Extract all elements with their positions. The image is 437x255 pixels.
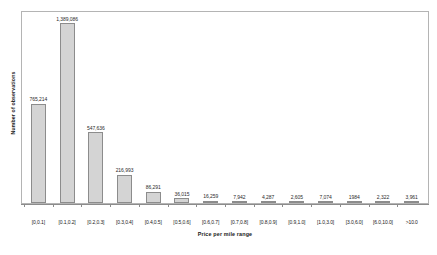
- bar-value-label: 7,074: [319, 194, 331, 200]
- x-axis-category-label: [0.5,0.6]: [168, 210, 197, 228]
- bar-value-label: 2,605: [291, 194, 303, 200]
- x-axis-category-text: [3.0,6.0]: [346, 219, 363, 225]
- x-axis-tick: [24, 204, 53, 207]
- x-axis-category-label: [0.4,0.5]: [139, 210, 168, 228]
- tick-mark: [110, 204, 111, 207]
- tick-mark: [311, 204, 312, 207]
- x-axis-tick: [53, 204, 82, 207]
- x-axis-tick: [369, 204, 398, 207]
- bar-value-label: 1,389,086: [56, 16, 78, 22]
- bar-group: 547,636: [81, 12, 110, 203]
- bar[interactable]: [203, 201, 218, 203]
- x-axis-category-label: [0.6,0.7]: [196, 210, 225, 228]
- bar-group: 2,322: [369, 12, 398, 203]
- bar[interactable]: [289, 201, 304, 203]
- x-axis-category-label: [0.2,0.3]: [81, 210, 110, 228]
- bar-group: 86,291: [139, 12, 168, 203]
- bar-group: 1,389,086: [53, 12, 82, 203]
- bar-group: 36,015: [168, 12, 197, 203]
- x-axis-tick: [139, 204, 168, 207]
- x-axis-tick: [81, 204, 110, 207]
- tick-mark: [53, 204, 54, 207]
- x-axis-tick: [225, 204, 254, 207]
- x-axis-category-label: [6.0,10.0]: [369, 210, 398, 228]
- x-axis-category-label: [0.7,0.8]: [225, 210, 254, 228]
- bar[interactable]: [375, 201, 390, 203]
- x-axis-ticks: [22, 204, 428, 207]
- bar[interactable]: [117, 175, 132, 203]
- tick-mark: [225, 204, 226, 207]
- bar-group: 765,214: [24, 12, 53, 203]
- bar[interactable]: [146, 192, 161, 203]
- bar-group: 7,942: [225, 12, 254, 203]
- x-axis-category-text: [0,0.1]: [32, 219, 45, 225]
- x-axis-category-label: [0,0.1]: [24, 210, 53, 228]
- bar-chart: Number of observations 765,2141,389,0865…: [0, 0, 437, 255]
- bar-group: 3,961: [397, 12, 426, 203]
- bar-value-label: 16,259: [203, 193, 218, 199]
- bar-value-label: 216,993: [116, 167, 134, 173]
- x-axis-category-text: >10.0: [406, 219, 418, 225]
- tick-mark: [340, 204, 341, 207]
- bar[interactable]: [31, 104, 46, 203]
- tick-mark: [369, 204, 370, 207]
- x-axis-category-text: [0.6,0.7]: [202, 219, 219, 225]
- bar-value-label: 86,291: [146, 184, 161, 190]
- bar-value-label: 36,015: [174, 191, 189, 197]
- x-axis-category-label: >10.0: [397, 210, 426, 228]
- y-axis-title-text: Number of observations: [10, 71, 16, 134]
- tick-mark: [254, 204, 255, 207]
- bars-container: 765,2141,389,086547,636216,99386,29136,0…: [22, 12, 428, 203]
- bar[interactable]: [88, 132, 103, 203]
- bar-group: 216,993: [110, 12, 139, 203]
- y-axis-title: Number of observations: [5, 0, 21, 205]
- x-axis-category-label: [3.0,6.0]: [340, 210, 369, 228]
- tick-mark: [397, 204, 398, 207]
- x-axis-labels: [0,0.1][0.1,0.2][0.2,0.3][0.3,0.4][0.4,0…: [22, 210, 428, 228]
- x-axis-category-label: [0.9,1.0]: [282, 210, 311, 228]
- bar[interactable]: [174, 198, 189, 203]
- bar[interactable]: [404, 201, 419, 203]
- x-axis-tick: [340, 204, 369, 207]
- x-axis-tick: [397, 204, 426, 207]
- tick-mark: [196, 204, 197, 207]
- x-axis-category-label: [0.8,0.9]: [254, 210, 283, 228]
- x-axis-category-text: [0.5,0.6]: [173, 219, 190, 225]
- bar-value-label: 1984: [349, 194, 360, 200]
- bar-value-label: 765,214: [29, 96, 47, 102]
- x-axis-title: Price per mile range: [21, 231, 429, 237]
- bar-group: 2,605: [282, 12, 311, 203]
- bar[interactable]: [232, 201, 247, 203]
- x-axis-category-text: [0.3,0.4]: [116, 219, 133, 225]
- x-axis-tick: [196, 204, 225, 207]
- x-axis-tick: [254, 204, 283, 207]
- bar[interactable]: [318, 201, 333, 203]
- x-axis-category-text: [0.8,0.9]: [260, 219, 277, 225]
- bar-value-label: 2,322: [377, 194, 389, 200]
- bar-group: 7,074: [311, 12, 340, 203]
- tick-mark: [168, 204, 169, 207]
- x-axis-category-label: [1.0,3.0]: [311, 210, 340, 228]
- bar[interactable]: [347, 201, 362, 203]
- tick-mark: [139, 204, 140, 207]
- x-axis-category-text: [1.0,3.0]: [317, 219, 334, 225]
- bar-group: 4,287: [254, 12, 283, 203]
- x-axis-category-label: [0.3,0.4]: [110, 210, 139, 228]
- bar-value-label: 547,636: [87, 125, 105, 131]
- x-axis-tick: [168, 204, 197, 207]
- x-axis-category-text: [0.7,0.8]: [231, 219, 248, 225]
- bar-group: 1984: [340, 12, 369, 203]
- x-axis-category-label: [0.1,0.2]: [53, 210, 82, 228]
- bar[interactable]: [261, 201, 276, 203]
- x-axis-category-text: [0.4,0.5]: [145, 219, 162, 225]
- x-axis-category-text: [0.2,0.3]: [87, 219, 104, 225]
- bar[interactable]: [60, 23, 75, 203]
- tick-mark: [81, 204, 82, 207]
- x-axis-category-text: [0.9,1.0]: [288, 219, 305, 225]
- x-axis-category-text: [0.1,0.2]: [58, 219, 75, 225]
- x-axis-tick: [110, 204, 139, 207]
- x-axis-category-text: [6.0,10.0]: [373, 219, 393, 225]
- bar-value-label: 4,287: [262, 194, 274, 200]
- bar-value-label: 7,942: [233, 194, 245, 200]
- bar-value-label: 3,961: [406, 194, 418, 200]
